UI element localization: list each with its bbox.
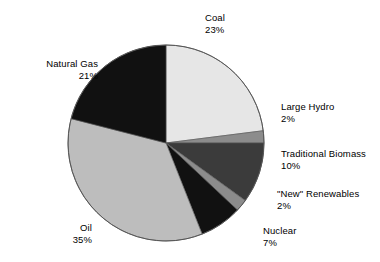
slice-label-nuclear: Nuclear 7% bbox=[263, 225, 296, 249]
slice-label-traditional-biomass-percent: 10% bbox=[281, 160, 366, 172]
slice-label-natural-gas-percent: 21% bbox=[12, 70, 98, 82]
pie-chart-figure: Coal 23% Natural Gas 21% Large Hydro 2% … bbox=[0, 0, 380, 262]
slice-label-oil-name: Oil bbox=[56, 222, 92, 234]
slice-label-traditional-biomass-name: Traditional Biomass bbox=[281, 148, 366, 160]
slice-label-coal: Coal 23% bbox=[205, 12, 225, 36]
slice-label-coal-name: Coal bbox=[205, 12, 225, 24]
slice-label-natural-gas-name: Natural Gas bbox=[12, 58, 98, 70]
slice-label-traditional-biomass: Traditional Biomass 10% bbox=[281, 148, 366, 172]
slice-label-new-renewables: "New" Renewables 2% bbox=[277, 188, 359, 212]
slice-label-oil: Oil 35% bbox=[56, 222, 92, 246]
slice-label-new-renewables-name: "New" Renewables bbox=[277, 188, 359, 200]
slice-label-nuclear-name: Nuclear bbox=[263, 225, 296, 237]
slice-label-large-hydro: Large Hydro 2% bbox=[281, 101, 334, 125]
slice-label-natural-gas: Natural Gas 21% bbox=[12, 58, 98, 82]
pie-slice bbox=[166, 45, 263, 143]
slice-label-oil-percent: 35% bbox=[56, 234, 92, 246]
slice-label-coal-percent: 23% bbox=[205, 24, 225, 36]
slice-label-nuclear-percent: 7% bbox=[263, 237, 296, 249]
slice-label-new-renewables-percent: 2% bbox=[277, 200, 359, 212]
slice-label-large-hydro-percent: 2% bbox=[281, 113, 334, 125]
slice-label-large-hydro-name: Large Hydro bbox=[281, 101, 334, 113]
